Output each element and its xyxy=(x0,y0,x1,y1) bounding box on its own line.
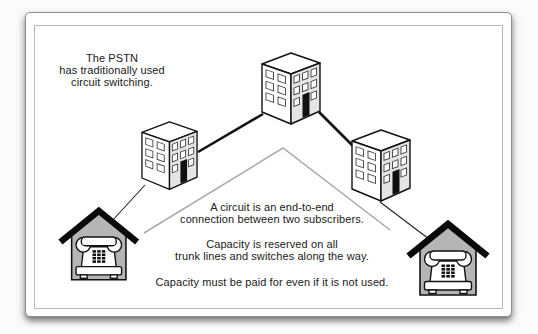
payment-note: Capacity must be paid for even if it is … xyxy=(122,276,422,288)
figure-stage: The PSTN has traditionally used circuit … xyxy=(0,0,538,334)
trunk-line-left-icon xyxy=(198,114,263,152)
capacity-note-line: trunk lines and switches along the way. xyxy=(142,250,402,262)
pstn-note-line: has traditionally used xyxy=(26,64,198,76)
trunk-line-right-icon xyxy=(319,112,357,150)
switch-building-left-icon xyxy=(142,122,197,189)
payment-note-line: Capacity must be paid for even if it is … xyxy=(122,276,422,288)
switch-building-central-icon xyxy=(262,53,320,124)
capacity-note: Capacity is reserved on all trunk lines … xyxy=(142,238,402,262)
circuit-note-line: connection between two subscribers. xyxy=(152,213,392,225)
circuit-note: A circuit is an end-to-end connection be… xyxy=(152,201,392,225)
switch-building-right-icon xyxy=(352,130,410,201)
pstn-note-line: circuit switching. xyxy=(26,76,198,88)
pstn-note-line: The PSTN xyxy=(26,52,198,64)
circuit-note-line: A circuit is an end-to-end xyxy=(152,201,392,213)
subscriber-house-left-icon xyxy=(63,211,135,280)
subscriber-line-left-icon xyxy=(112,185,145,221)
pstn-note: The PSTN has traditionally used circuit … xyxy=(26,52,198,89)
subscriber-house-right-icon xyxy=(411,224,485,295)
capacity-note-line: Capacity is reserved on all xyxy=(142,238,402,250)
